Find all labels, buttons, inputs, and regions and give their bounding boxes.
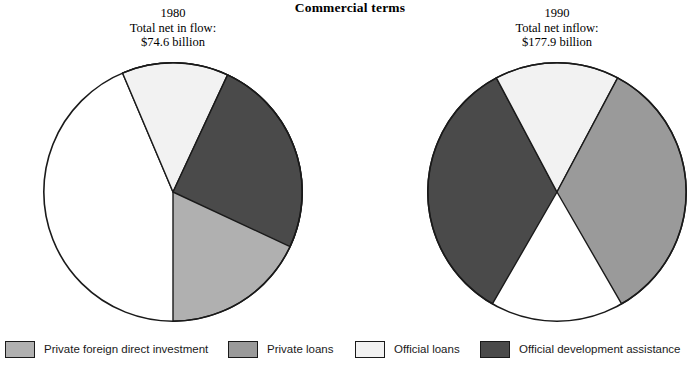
panel-header-1990: 1990 Total net inflow: $177.9 billion: [437, 6, 677, 50]
legend: Private foreign direct investment Privat…: [0, 337, 700, 365]
legend-item-private-foreign-direct-investment[interactable]: Private foreign direct investment: [5, 337, 208, 361]
pie-svg-1990: [427, 62, 691, 326]
panel-total-value-1990: $177.9 billion: [437, 35, 677, 50]
legend-swatch-private-foreign-direct-investment: [5, 341, 35, 358]
pie-chart-1980: [43, 62, 307, 326]
legend-label-official-loans: Official loans: [394, 342, 460, 356]
panel-year-1990: 1990: [437, 6, 677, 21]
pie-svg-1980: [43, 62, 307, 326]
legend-swatch-private-loans: [228, 341, 258, 358]
panel-total-value-1980: $74.6 billion: [53, 35, 293, 50]
panel-year-1980: 1980: [53, 6, 293, 21]
legend-label-private-loans: Private loans: [267, 342, 333, 356]
legend-label-official-development-assistance: Official development assistance: [519, 342, 681, 356]
legend-item-official-loans[interactable]: Official loans: [355, 337, 460, 361]
legend-label-private-foreign-direct-investment: Private foreign direct investment: [44, 342, 208, 356]
panel-header-1980: 1980 Total net in flow: $74.6 billion: [53, 6, 293, 50]
legend-item-private-loans[interactable]: Private loans: [228, 337, 333, 361]
pie-chart-1990: [427, 62, 691, 326]
panel-total-label-1980: Total net in flow:: [53, 21, 293, 36]
legend-swatch-official-development-assistance: [480, 341, 510, 358]
panel-total-label-1990: Total net inflow:: [437, 21, 677, 36]
legend-swatch-official-loans: [355, 341, 385, 358]
legend-item-official-development-assistance[interactable]: Official development assistance: [480, 337, 681, 361]
